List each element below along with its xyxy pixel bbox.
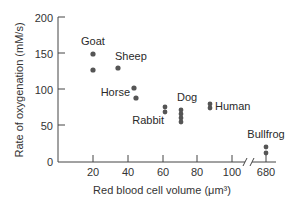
y-tick-label: 50 bbox=[41, 120, 53, 132]
y-tick-label: 100 bbox=[35, 84, 53, 96]
data-point bbox=[115, 65, 120, 70]
x-tick-label: 80 bbox=[191, 166, 203, 178]
series-bullfrog: Bullfrog bbox=[247, 128, 284, 155]
series-human: Human bbox=[208, 100, 251, 112]
x-tick-label: 100 bbox=[223, 166, 241, 178]
point-label-horse: Horse bbox=[101, 86, 130, 98]
x-axis-title: Red blood cell volume (μm³) bbox=[93, 184, 231, 196]
x-tick-label: 680 bbox=[257, 166, 275, 178]
series-sheep: Sheep bbox=[115, 50, 147, 71]
series-dog: Dog bbox=[177, 91, 197, 124]
point-label-bullfrog: Bullfrog bbox=[247, 128, 284, 140]
data-point bbox=[133, 95, 138, 100]
y-tick-label: 0 bbox=[47, 156, 53, 168]
data-point bbox=[163, 105, 168, 110]
y-tick-label: 200 bbox=[35, 12, 53, 24]
point-label-goat: Goat bbox=[81, 35, 105, 47]
series-rabbit: Rabbit bbox=[132, 105, 167, 126]
y-axis-title: Rate of oxygenation (mM/s) bbox=[13, 22, 25, 157]
data-point bbox=[264, 145, 269, 150]
x-tick-label: 40 bbox=[122, 166, 134, 178]
series-goat: Goat bbox=[81, 35, 105, 73]
x-tick-label: 60 bbox=[157, 166, 169, 178]
data-point bbox=[90, 51, 95, 56]
point-label-dog: Dog bbox=[177, 91, 197, 103]
data-point bbox=[90, 67, 95, 72]
point-label-human: Human bbox=[215, 100, 250, 112]
data-point bbox=[208, 106, 213, 111]
y-tick-label: 150 bbox=[35, 48, 53, 60]
data-point bbox=[131, 85, 136, 90]
data-point bbox=[179, 120, 184, 125]
point-label-rabbit: Rabbit bbox=[132, 114, 164, 126]
x-tick-label: 20 bbox=[87, 166, 99, 178]
series-horse: Horse bbox=[101, 85, 139, 100]
point-label-sheep: Sheep bbox=[115, 50, 147, 62]
data-point bbox=[264, 151, 269, 156]
scatter-chart: 200 150 100 50 0 Rate of oxygenation (mM… bbox=[0, 0, 297, 205]
